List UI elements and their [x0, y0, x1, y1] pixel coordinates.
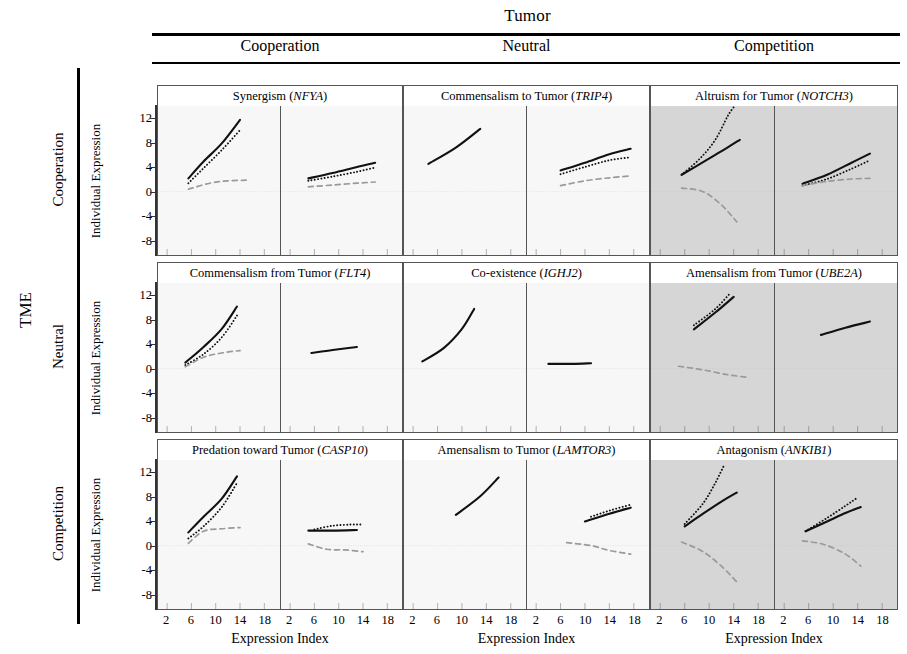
x-tick-label: 14	[851, 613, 864, 628]
panel-title: Predation toward Tumor (CASP10)	[158, 440, 402, 461]
y-tick-mark	[150, 369, 155, 370]
x-axis-label-col-0: Expression Index	[157, 631, 403, 647]
subpanel-2	[526, 283, 649, 432]
subpanel-1	[158, 106, 280, 255]
panel-ankib1: Antagonism (ANKIB1)	[650, 439, 898, 610]
series-solid	[428, 129, 480, 164]
panel-body	[158, 106, 402, 255]
y-tick-mark	[150, 192, 155, 193]
series-solid	[188, 120, 240, 179]
series-solid	[694, 297, 734, 330]
series-dashed	[682, 542, 737, 582]
subpanel-2	[526, 106, 649, 255]
subpanel-plot	[775, 106, 898, 255]
x-tick-label: 18	[876, 613, 889, 628]
x-tick-label: 18	[628, 613, 641, 628]
x-tick-label: 18	[258, 613, 271, 628]
y-axis-label-row-2: Individual Expression	[88, 455, 104, 615]
x-tick-label: 6	[311, 613, 317, 628]
subpanel-plot	[775, 460, 898, 609]
panel-title-text: Commensalism to Tumor (TRIP4)	[441, 89, 612, 103]
series-dotted	[591, 505, 631, 517]
series-solid	[308, 163, 375, 179]
y-axis-label-row-1: Individual Expression	[88, 278, 104, 438]
panel-title-text: Commensalism from Tumor (FLT4)	[190, 266, 371, 280]
series-dotted	[308, 168, 375, 181]
panel-title: Commensalism from Tumor (FLT4)	[158, 263, 402, 284]
x-tick-label: 14	[480, 613, 493, 628]
series-dashed	[185, 351, 240, 367]
series-solid	[805, 507, 860, 531]
panel-body	[651, 460, 897, 609]
y-tick-mark	[150, 393, 155, 394]
series-dashed	[802, 541, 860, 566]
x-tick-label: 14	[727, 613, 740, 628]
series-solid	[585, 508, 631, 522]
panel-body	[651, 283, 897, 432]
subpanel-2	[526, 460, 649, 609]
y-tick-mark	[150, 418, 155, 419]
panel-title: Commensalism to Tumor (TRIP4)	[404, 86, 649, 107]
series-dashed	[308, 544, 363, 552]
x-tick-label: 14	[604, 613, 617, 628]
panel-title: Altruism for Tumor (NOTCH3)	[651, 86, 897, 107]
subpanel-2	[280, 283, 403, 432]
y-tick-mark	[150, 344, 155, 345]
panel-title: Synergism (NFYA)	[158, 86, 402, 107]
x-tick-label: 10	[703, 613, 716, 628]
x-axis-label-col-2: Expression Index	[650, 631, 898, 647]
y-tick-mark	[150, 570, 155, 571]
panel-body	[158, 283, 402, 432]
y-tick-mark	[150, 521, 155, 522]
x-axis-label-col-1: Expression Index	[403, 631, 650, 647]
series-dotted	[802, 160, 869, 185]
panel-ube2a: Amensalism from Tumor (UBE2A)	[650, 262, 898, 433]
panel-nfya: Synergism (NFYA)	[157, 85, 403, 256]
panel-title: Amensalism from Tumor (UBE2A)	[651, 263, 897, 284]
subpanel-plot	[775, 283, 898, 432]
panel-title-text: Synergism (NFYA)	[233, 89, 327, 103]
x-tick-label: 6	[805, 613, 811, 628]
subpanel-plot	[527, 283, 649, 432]
side-rule	[77, 68, 80, 624]
x-tick-label: 6	[557, 613, 563, 628]
y-tick-mark	[150, 241, 155, 242]
x-tick-label: 2	[409, 613, 415, 628]
subpanel-1	[651, 283, 774, 432]
x-tick-label: 2	[656, 613, 662, 628]
subpanel-1	[404, 283, 526, 432]
subpanel-plot	[651, 460, 774, 609]
header-rule-mid	[152, 62, 900, 64]
series-dashed	[308, 182, 375, 187]
series-solid	[682, 140, 740, 175]
panel-title: Antagonism (ANKIB1)	[651, 440, 897, 461]
series-dotted	[682, 107, 734, 175]
x-tick-label: 10	[579, 613, 592, 628]
series-solid	[308, 530, 357, 531]
subpanel-2	[774, 106, 898, 255]
panel-body	[404, 460, 649, 609]
subpanel-2	[280, 460, 403, 609]
series-solid	[548, 363, 591, 364]
x-tick-label: 2	[533, 613, 539, 628]
subpanel-plot	[281, 283, 403, 432]
y-tick-mark	[150, 497, 155, 498]
subpanel-plot	[527, 106, 649, 255]
x-tick-label: 18	[381, 613, 394, 628]
column-header-competition: Competition	[650, 37, 898, 55]
panel-gene-name: CASP10	[321, 443, 363, 457]
subpanel-plot	[281, 460, 403, 609]
subpanel-2	[280, 106, 403, 255]
subpanel-1	[158, 283, 280, 432]
x-tick-label: 2	[163, 613, 169, 628]
x-tick-label: 18	[505, 613, 518, 628]
side-axis-title: TME	[16, 292, 36, 328]
panel-body	[404, 283, 649, 432]
series-solid	[311, 347, 357, 353]
panel-gene-name: IGHJ2	[544, 266, 578, 280]
series-dotted	[685, 464, 725, 524]
series-solid	[456, 477, 499, 514]
panel-trip4: Commensalism to Tumor (TRIP4)	[403, 85, 650, 256]
y-tick-mark	[150, 546, 155, 547]
series-solid	[685, 493, 737, 527]
